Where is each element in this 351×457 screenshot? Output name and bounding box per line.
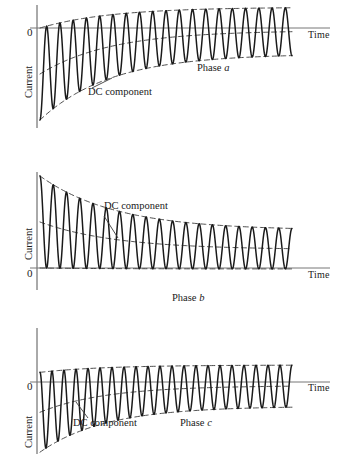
figure-root: 0 Time Current DC component Phase a 0 Ti… — [0, 0, 351, 457]
phase-c-title: Phase c — [180, 418, 212, 429]
phase-a-dc-label: DC component — [88, 87, 152, 98]
phase-c-y-axis-label: Current — [24, 416, 35, 448]
phase-c-title-word: Phase — [180, 417, 205, 428]
phase-b-y-axis-label: Current — [24, 228, 35, 260]
phase-a-y-axis-label: Current — [24, 66, 35, 98]
phase-c-origin-label: 0 — [27, 381, 33, 392]
phase-b-canvas — [0, 160, 351, 310]
phase-c-dc-leader — [76, 402, 88, 418]
phase-a-envelopes — [40, 8, 292, 120]
plot-phase-a: 0 Time Current DC component Phase a — [0, 0, 351, 150]
phase-c-dc-label: DC component — [73, 418, 137, 429]
phase-c-waveform — [40, 365, 292, 448]
phase-a-title-letter: a — [224, 62, 229, 73]
plot-phase-b: 0 Time Current DC component Phase b — [0, 160, 351, 310]
phase-a-title: Phase a — [197, 63, 229, 74]
phase-b-title-word: Phase — [172, 292, 197, 303]
phase-b-waveform — [40, 176, 292, 269]
phase-b-x-axis-label: Time — [308, 270, 330, 280]
phase-b-title: Phase b — [172, 293, 204, 304]
phase-b-dc-label: DC component — [104, 201, 168, 212]
phase-c-title-letter: c — [207, 417, 212, 428]
phase-b-title-letter: b — [199, 292, 204, 303]
phase-a-waveform — [40, 8, 292, 120]
phase-a-origin-label: 0 — [27, 27, 33, 38]
phase-a-title-word: Phase — [197, 62, 222, 73]
phase-b-origin-label: 0 — [27, 268, 33, 279]
phase-c-axes — [30, 328, 330, 454]
phase-b-axes — [30, 172, 330, 290]
phase-a-x-axis-label: Time — [308, 30, 330, 40]
phase-a-canvas — [0, 0, 351, 150]
plot-phase-c: 0 Time Current DC component Phase c — [0, 320, 351, 457]
phase-a-axes — [30, 5, 330, 128]
phase-c-x-axis-label: Time — [308, 383, 330, 393]
phase-b-dc-leader — [104, 216, 118, 238]
phase-c-canvas — [0, 320, 351, 457]
